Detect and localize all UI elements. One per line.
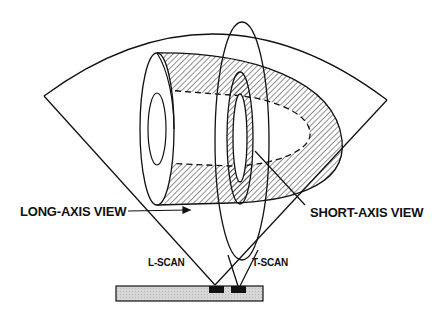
diagram-graphic <box>0 0 444 313</box>
echo-scan-diagram: LONG-AXIS VIEW SHORT-AXIS VIEW L-SCAN T-… <box>0 0 444 313</box>
t-scan-element <box>231 286 246 293</box>
short-axis-view-label: SHORT-AXIS VIEW <box>310 205 423 220</box>
l-scan-element <box>209 286 224 293</box>
transducer <box>116 286 263 301</box>
t-scan-label: T-SCAN <box>252 257 288 268</box>
l-scan-label: L-SCAN <box>148 257 185 268</box>
long-axis-view-label: LONG-AXIS VIEW <box>20 204 126 219</box>
